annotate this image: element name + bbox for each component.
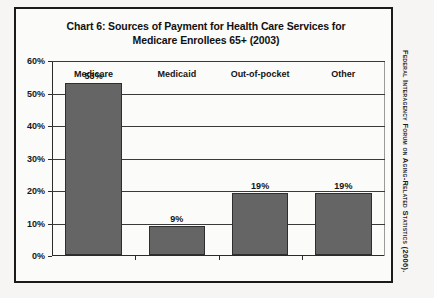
chart-title: Chart 6: Sources of Payment for Health C… [36, 19, 376, 47]
bar-out-of-pocket[interactable] [232, 193, 289, 255]
y-axis-tick-label: 20% [27, 186, 45, 196]
x-axis-tick [302, 256, 303, 260]
y-axis-tick-label: 10% [27, 219, 45, 229]
scanned-page-background: Chart 6: Sources of Payment for Health C… [0, 0, 434, 298]
y-axis-tick [48, 159, 52, 160]
bar-medicare[interactable] [65, 83, 122, 255]
y-axis-tick-label: 50% [27, 89, 45, 99]
x-axis-category-label: Medicaid [158, 69, 197, 79]
x-axis-category-label: Other [331, 69, 355, 79]
chart-title-line-2: Medicare Enrollees 65+ (2003) [36, 33, 376, 47]
y-axis-tick-label: 60% [27, 56, 45, 66]
y-axis-tick [48, 61, 52, 62]
x-axis-category-label: Medicare [74, 69, 113, 79]
bar-value-label: 9% [170, 214, 183, 224]
bar-value-label: 19% [251, 181, 269, 191]
y-axis-tick [48, 191, 52, 192]
bar-medicaid[interactable] [149, 226, 206, 255]
x-axis-tick [219, 256, 220, 260]
y-axis-tick [48, 224, 52, 225]
y-axis-tick [48, 94, 52, 95]
bar-other[interactable] [315, 193, 372, 255]
source-credit: Federal Interagency Forum on Aging-Relat… [398, 50, 412, 290]
y-axis-tick [48, 126, 52, 127]
gridline [52, 61, 385, 62]
x-axis-tick [135, 256, 136, 260]
y-axis-tick-label: 40% [27, 121, 45, 131]
y-axis-tick [48, 256, 52, 257]
chart-title-line-1: Chart 6: Sources of Payment for Health C… [66, 20, 345, 32]
bar-value-label: 19% [334, 181, 352, 191]
y-axis-tick-label: 0% [32, 251, 45, 261]
plot-area: 0%10%20%30%40%50%60% 53%9%19%19% Medicar… [52, 61, 385, 256]
x-axis-category-label: Out-of-pocket [231, 69, 290, 79]
y-axis-tick-label: 30% [27, 154, 45, 164]
chart-figure-frame: Chart 6: Sources of Payment for Health C… [14, 7, 393, 283]
